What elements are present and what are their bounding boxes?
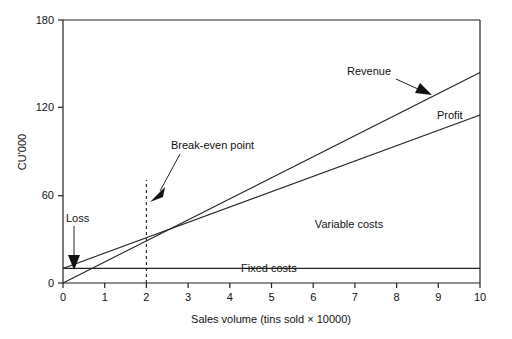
variable-costs-label: Variable costs <box>315 218 384 230</box>
x-tick-label-4: 4 <box>227 291 233 303</box>
y-tick-label-0: 0 <box>48 277 54 289</box>
revenue-arrow-icon <box>415 83 432 95</box>
revenue-line <box>63 73 480 283</box>
x-tick-label-3: 3 <box>185 291 191 303</box>
chart-canvas: 180 120 60 0 0 1 2 3 4 5 6 7 8 9 10 CU'0… <box>0 0 512 339</box>
break-even-arrow-icon <box>150 187 165 202</box>
break-even-point-label: Break-even point <box>171 139 254 151</box>
revenue-leader-line <box>396 79 418 89</box>
y-tick-label-120: 120 <box>36 101 54 113</box>
break-even-chart: 180 120 60 0 0 1 2 3 4 5 6 7 8 9 10 CU'0… <box>0 0 512 339</box>
x-tick-label-8: 8 <box>394 291 400 303</box>
fixed-costs-label: Fixed costs <box>241 262 297 274</box>
x-tick-label-0: 0 <box>60 291 66 303</box>
y-axis-title: CU'000 <box>16 134 28 170</box>
break-even-leader-line <box>160 154 180 191</box>
loss-label: Loss <box>66 212 90 224</box>
x-tick-label-5: 5 <box>268 291 274 303</box>
y-tick-label-60: 60 <box>42 189 54 201</box>
x-tick-label-1: 1 <box>102 291 108 303</box>
x-tick-label-2: 2 <box>143 291 149 303</box>
x-tick-label-7: 7 <box>352 291 358 303</box>
x-tick-label-6: 6 <box>310 291 316 303</box>
y-axis-ticks <box>58 20 63 283</box>
profit-label: Profit <box>437 109 463 121</box>
y-tick-label-180: 180 <box>36 14 54 26</box>
x-axis-title: Sales volume (tins sold × 10000) <box>191 313 351 325</box>
x-axis-ticks <box>63 283 480 288</box>
x-tick-label-10: 10 <box>474 291 486 303</box>
total-cost-line <box>63 115 480 268</box>
revenue-label: Revenue <box>347 65 391 77</box>
x-tick-label-9: 9 <box>435 291 441 303</box>
